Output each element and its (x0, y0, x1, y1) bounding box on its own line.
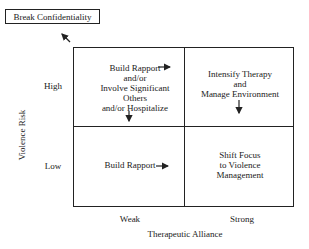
arrow-up-left-icon (62, 34, 70, 42)
arrows-layer (0, 0, 309, 249)
